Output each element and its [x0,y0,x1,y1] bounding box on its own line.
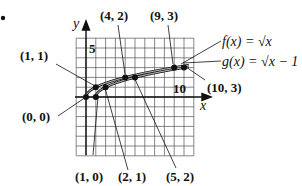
label-point-2-1: (2, 1) [118,169,146,184]
point-marker [181,65,187,71]
point-marker [83,94,89,100]
bullet-marker [1,16,5,20]
label-point-1-1: (1, 1) [20,48,48,63]
legend-f: f(x) = √x [222,34,273,50]
x-axis-label: x [199,98,207,113]
label-point-0-0: (0, 0) [22,109,50,124]
y-tick-label-5: 5 [89,41,96,56]
y-axis-label: y [71,16,80,31]
legend-g: g(x) = √x − 1 [222,54,298,70]
label-point-5-2: (5, 2) [166,169,194,184]
label-point-4-2: (4, 2) [100,8,128,23]
point-marker [93,94,99,100]
graph-figure: (1, 1) (4, 2) (9, 3) (10, 3) (0, 0) (1, … [0,0,302,186]
point-marker [171,65,177,71]
point-marker [93,84,99,90]
x-tick-label-10: 10 [173,81,186,96]
label-point-9-3: (9, 3) [150,8,178,23]
label-point-10-3: (10, 3) [207,80,242,95]
label-point-1-0: (1, 0) [75,169,103,184]
y-axis-arrow-icon [83,21,90,30]
point-marker [103,84,109,90]
point-marker [122,74,128,80]
point-marker [132,74,138,80]
